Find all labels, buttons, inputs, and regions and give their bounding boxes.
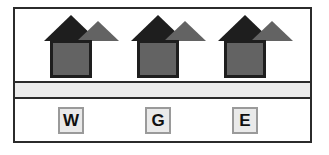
roof-icon [44, 15, 98, 41]
diagram-frame: W G E [13, 7, 312, 143]
label-box-w[interactable]: W [58, 107, 84, 134]
roof-icon [218, 15, 272, 41]
house-body [224, 40, 266, 78]
house-center[interactable] [131, 15, 185, 79]
houses-row [15, 9, 310, 83]
roof-fill [164, 21, 206, 41]
label-box-e[interactable]: E [232, 107, 258, 134]
house-body [50, 40, 92, 78]
roof-icon [131, 15, 185, 41]
road-band [15, 81, 310, 99]
house-east[interactable] [218, 15, 272, 79]
diagram-canvas: W G E [0, 0, 329, 155]
house-west[interactable] [44, 15, 98, 79]
house-body [137, 40, 179, 78]
labels-row: W G E [15, 99, 310, 141]
roof-fill [251, 21, 293, 41]
label-box-g[interactable]: G [145, 107, 171, 134]
roof-fill [77, 21, 119, 41]
